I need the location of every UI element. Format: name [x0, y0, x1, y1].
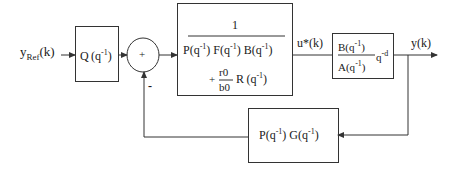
plant-denominator: A(q-1): [338, 60, 365, 73]
controller-plus-sign: +: [209, 74, 215, 85]
controller-b0: b0: [219, 82, 230, 93]
controller-numerator: 1: [232, 19, 238, 31]
input-signal-label: yRef(k): [20, 45, 55, 62]
feedback-return-line: [144, 72, 248, 137]
q-block: Q (q-1): [80, 49, 112, 62]
controller-r-term: R (q-1): [236, 72, 267, 85]
output-signal-label: y(k): [411, 37, 431, 49]
plant-delay: q-d: [376, 50, 388, 63]
controller-r0: r0: [219, 67, 228, 78]
plant-numerator: B(q-1): [338, 40, 365, 53]
controller-denominator-line1: P(q-1) F(q-1) B(q-1): [183, 43, 272, 56]
sum-minus-sign: -: [148, 80, 152, 92]
sum-plus-sign: +: [139, 49, 145, 60]
feedback-block: P(q-1) G(q-1): [259, 128, 319, 141]
control-signal-label: u*(k): [297, 37, 323, 49]
